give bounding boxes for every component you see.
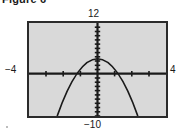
y-axis-min-label: −10 <box>84 119 101 130</box>
graph-canvas <box>29 23 166 116</box>
figure-container: Figure 6 <box>0 0 180 137</box>
y-axis <box>95 23 100 116</box>
y-axis-max-label: 12 <box>88 8 99 19</box>
figure-caption: Figure 6 <box>2 0 46 5</box>
x-axis-min-label: −4 <box>5 64 16 75</box>
x-axis-max-label: 4 <box>170 64 176 75</box>
stray-speck <box>6 126 8 128</box>
graph-viewport <box>27 21 168 118</box>
